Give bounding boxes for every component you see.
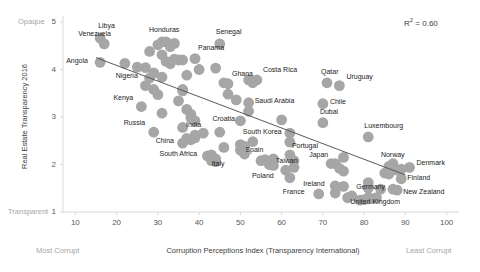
data-point (284, 172, 295, 183)
data-point (194, 64, 205, 75)
x-axis-tick-label: 40 (187, 218, 211, 227)
data-point-label: New Zealand (403, 188, 444, 195)
x-axis-tick-label: 80 (352, 218, 376, 227)
data-point-label: Denmark (417, 159, 445, 166)
data-point-label: India (186, 121, 201, 128)
data-point-label: Spain (245, 146, 263, 153)
data-point-label: Norway (381, 151, 405, 158)
x-axis-tick-label: 100 (435, 218, 459, 227)
data-point-label: Dubai (320, 108, 338, 115)
data-point (322, 77, 333, 88)
data-point-label: Croatia (212, 115, 235, 122)
data-point-label: Finland (407, 174, 430, 181)
data-point (198, 128, 209, 139)
data-point-label: Nigeria (116, 72, 138, 79)
data-point (218, 142, 229, 153)
x-axis-tick-label: 60 (270, 218, 294, 227)
data-point-label: Taiwan (276, 157, 298, 164)
x-axis-tick-label: 10 (63, 218, 87, 227)
data-point (136, 101, 147, 112)
data-point-label: Luxembourg (364, 122, 403, 129)
data-point-label: Russia (124, 119, 145, 126)
y-axis-tick-label: 3 (42, 112, 56, 121)
data-point-label: France (283, 188, 305, 195)
data-point-label: South Korea (243, 128, 282, 135)
data-point-label: Ireland (303, 180, 324, 187)
y-axis-title: Real Estate Transparency 2016 (20, 47, 29, 187)
data-point-label: Germany (356, 183, 385, 190)
data-point (148, 127, 159, 138)
y-axis-tick-label: 2 (42, 160, 56, 169)
x-axis-tick-label: 90 (393, 218, 417, 227)
x-axis-right-cap-label: Least Corrupt (406, 246, 451, 255)
data-point-label: Saudi Arabia (255, 97, 295, 104)
data-point-label: Kenya (113, 94, 133, 101)
data-point-label: South Africa (160, 150, 198, 157)
data-point (276, 114, 287, 125)
data-point-label: Costa Rica (263, 66, 297, 73)
data-point-label: Senegal (216, 28, 242, 35)
data-point (330, 188, 341, 199)
data-point (388, 184, 399, 195)
data-point-label: Angola (66, 57, 88, 64)
data-point-label: Poland (252, 172, 274, 179)
x-axis-left-cap-label: Most Corrupt (36, 246, 79, 255)
x-axis-tick-label: 70 (311, 218, 335, 227)
x-axis-tick-label: 20 (105, 218, 129, 227)
data-point (95, 57, 106, 68)
data-point (218, 77, 229, 88)
y-axis-tick-label: 4 (42, 65, 56, 74)
data-point (313, 189, 324, 200)
data-point-label: Honduras (149, 26, 179, 33)
data-point (169, 38, 180, 49)
data-point (231, 95, 242, 106)
data-point-label: United Kingdom (350, 198, 400, 205)
data-point-label: Portugal (292, 142, 318, 149)
data-point-label: Venezuela (78, 30, 111, 37)
y-axis-tick-label: 5 (42, 17, 56, 26)
data-point (214, 127, 225, 138)
data-point-label: Japan (309, 151, 328, 158)
y-axis-top-cap-label: Opaque (18, 17, 45, 26)
data-point (338, 166, 349, 177)
data-point-label: Chile (330, 98, 346, 105)
data-point (99, 38, 110, 49)
data-point-label: Uruguay (346, 73, 372, 80)
data-point (157, 108, 168, 119)
scatter-chart: Real Estate Transparency 2016 Corruption… (0, 0, 480, 272)
data-point-label: Libya (98, 22, 115, 29)
data-point-label: Panama (198, 44, 224, 51)
data-point (177, 55, 188, 66)
data-point (190, 53, 201, 64)
chart-canvas (0, 0, 480, 272)
data-point-label: China (156, 137, 174, 144)
x-axis-tick-label: 30 (146, 218, 170, 227)
data-point (235, 115, 246, 126)
data-point (317, 117, 328, 128)
data-point (247, 77, 258, 88)
y-axis-tick-label: 1 (42, 207, 56, 216)
data-point (181, 70, 192, 81)
data-point-label: Ghana (232, 70, 253, 77)
data-point (334, 80, 345, 91)
data-point-label: Qatar (321, 68, 339, 75)
data-point (173, 95, 184, 106)
data-point (210, 63, 221, 74)
data-point (152, 89, 163, 100)
data-point (338, 152, 349, 163)
x-axis-tick-label: 50 (228, 218, 252, 227)
r-squared-annotation: R2 = 0.60 (404, 17, 438, 28)
data-point-label: Italy (212, 160, 225, 167)
x-axis-title: Corruption Perceptions Index (Transparen… (113, 246, 413, 255)
data-point (363, 132, 374, 143)
